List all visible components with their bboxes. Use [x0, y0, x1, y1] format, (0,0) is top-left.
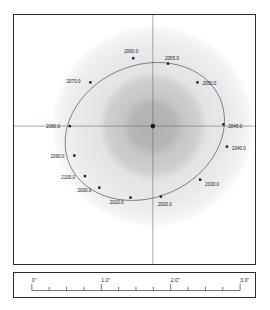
epoch-marker — [167, 62, 169, 64]
epoch-marker — [196, 81, 198, 83]
epoch-marker — [98, 187, 100, 189]
epoch-label: 2060.0 — [124, 49, 138, 54]
epoch-marker — [160, 195, 162, 197]
epoch-marker — [89, 81, 91, 83]
scale-tick-label: 3.0" — [240, 277, 249, 283]
primary-star-marker — [151, 124, 156, 129]
primary-star — [151, 124, 156, 129]
epoch-marker — [129, 196, 131, 198]
epoch-label: 2000.0 — [77, 188, 91, 193]
epoch-marker — [222, 123, 224, 125]
epoch-label: 2030.0 — [205, 182, 219, 187]
epoch-marker — [199, 178, 201, 180]
epoch-label: 2080.0 — [46, 124, 60, 129]
epoch-label: 2055.0 — [165, 56, 179, 61]
epoch-marker — [73, 154, 75, 156]
epoch-label: 2090.0 — [50, 154, 64, 159]
scale-tick-label: 0" — [32, 277, 37, 283]
scale-bar-canvas: 0"1.0"2.0"3.0" — [14, 273, 255, 297]
scale-bar-ticks: 0"1.0"2.0"3.0" — [32, 277, 249, 290]
epoch-label: 2070.0 — [67, 79, 81, 84]
epoch-label: 2050.0 — [202, 81, 216, 86]
scale-bar-panel: 0"1.0"2.0"3.0" — [13, 272, 256, 298]
epoch-label: 2010.0 — [110, 200, 124, 205]
epoch-marker — [69, 125, 71, 127]
epoch-label: 2100.0 — [61, 175, 75, 180]
epoch-marker — [226, 145, 228, 147]
epoch-label: 2040.0 — [232, 146, 246, 151]
scale-tick-label: 2.0" — [171, 277, 180, 283]
scale-tick-label: 1.0" — [101, 277, 110, 283]
epoch-marker — [132, 57, 134, 59]
epoch-marker — [84, 175, 86, 177]
orbit-figure: 2000.02010.02020.02030.02040.02045.02050… — [0, 0, 270, 310]
epoch-label: 2045.0 — [228, 124, 242, 129]
epoch-label: 2020.0 — [158, 202, 172, 207]
orbit-plot-canvas: 2000.02010.02020.02030.02040.02045.02050… — [14, 15, 255, 264]
orbit-plot-panel: 2000.02010.02020.02030.02040.02045.02050… — [13, 14, 256, 265]
